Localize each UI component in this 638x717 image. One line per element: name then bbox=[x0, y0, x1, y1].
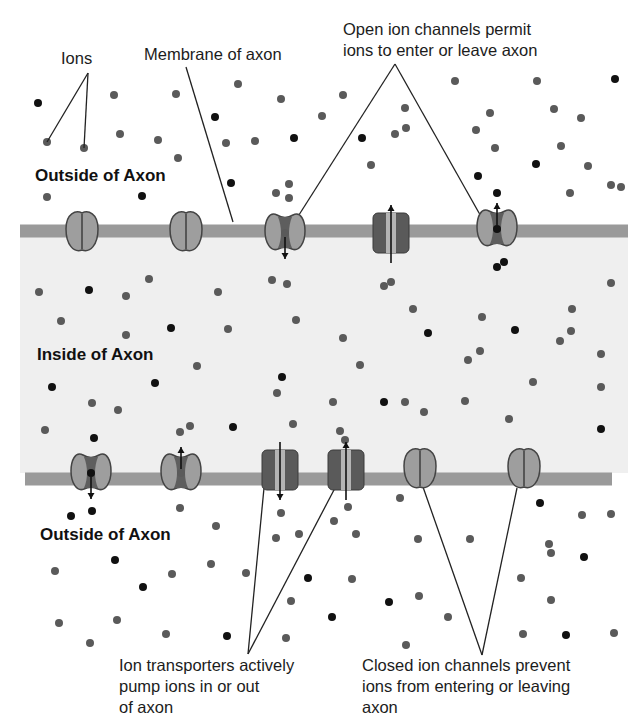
ion-in-channel bbox=[87, 469, 95, 477]
ion-dot bbox=[273, 389, 281, 397]
ion-dot bbox=[88, 507, 96, 515]
ion-dot bbox=[88, 399, 96, 407]
ion-dot bbox=[396, 494, 404, 502]
ion-dot bbox=[336, 427, 344, 435]
ion-dot bbox=[151, 379, 159, 387]
ion-dot bbox=[617, 183, 625, 191]
ion-dot bbox=[358, 134, 366, 142]
ion-dot bbox=[367, 161, 375, 169]
ion-dot bbox=[329, 398, 337, 406]
ion-dot bbox=[493, 263, 501, 271]
closed-channel bbox=[404, 449, 436, 488]
transporters-label-line-1: Ion transporters actively bbox=[119, 655, 294, 676]
ion-dot bbox=[420, 408, 428, 416]
ion-dot bbox=[318, 112, 326, 120]
ion-dot bbox=[285, 194, 293, 202]
ion-dot bbox=[55, 619, 63, 627]
ion-dot bbox=[242, 569, 250, 577]
open-channels-label-line-2: ions to enter or leave axon bbox=[343, 40, 537, 61]
ion-dot bbox=[529, 378, 537, 386]
ion-dot bbox=[34, 99, 42, 107]
ion-dot bbox=[517, 574, 525, 582]
ion-dot bbox=[251, 137, 259, 145]
ion-dot bbox=[352, 530, 360, 538]
ion-dot bbox=[341, 436, 349, 444]
ion-dot bbox=[227, 179, 235, 187]
ion-dot bbox=[493, 189, 501, 197]
ion-dot bbox=[174, 154, 182, 162]
ion-dot bbox=[176, 504, 184, 512]
ion-dot bbox=[597, 350, 605, 358]
ion-dot bbox=[550, 105, 558, 113]
ion-dot bbox=[547, 549, 555, 557]
ion-dot bbox=[464, 356, 472, 364]
ion-dot bbox=[556, 337, 564, 345]
ion-dot bbox=[415, 592, 423, 600]
ion-dot bbox=[122, 292, 130, 300]
ion-dot bbox=[214, 288, 222, 296]
ion-dot bbox=[168, 570, 176, 578]
ion-dot bbox=[472, 126, 480, 134]
ion-dot bbox=[519, 630, 527, 638]
ion-dot bbox=[122, 331, 130, 339]
ion-dot bbox=[536, 499, 544, 507]
ion-dot bbox=[414, 535, 422, 543]
ion-in-channel bbox=[493, 225, 501, 233]
closed-channel bbox=[66, 212, 98, 251]
ion-dot bbox=[272, 189, 280, 197]
ion-dot bbox=[207, 560, 215, 568]
ion-dot bbox=[547, 596, 555, 604]
ion-dot bbox=[611, 75, 619, 83]
ion-dot bbox=[290, 134, 298, 142]
ion-dot bbox=[285, 180, 293, 188]
ion-dot bbox=[562, 631, 570, 639]
ion-dot bbox=[401, 398, 409, 406]
ion-dot bbox=[154, 136, 162, 144]
ion-dot bbox=[229, 423, 237, 431]
ion-dot bbox=[212, 522, 220, 530]
ion-dot bbox=[461, 397, 469, 405]
transporters-label-line-2: pump ions in or out bbox=[119, 676, 294, 697]
ion-dot bbox=[607, 279, 615, 287]
ion-dot bbox=[139, 583, 147, 591]
ion-dot bbox=[545, 540, 553, 548]
ion-dot bbox=[268, 276, 276, 284]
ion-dot bbox=[466, 535, 474, 543]
ion-dot bbox=[48, 383, 56, 391]
ion-dot bbox=[224, 325, 232, 333]
ion-dot bbox=[387, 278, 395, 286]
ion-dot bbox=[193, 362, 201, 370]
outside-of-axon-bottom-label: Outside of Axon bbox=[40, 525, 171, 545]
ion-dot bbox=[292, 316, 300, 324]
ion-dot bbox=[486, 109, 494, 117]
ion-dot bbox=[578, 511, 586, 519]
closed-channel bbox=[170, 212, 202, 251]
ion-dot bbox=[567, 327, 575, 335]
ion-dot bbox=[385, 598, 393, 606]
ion-dot bbox=[597, 425, 605, 433]
ion-dot bbox=[176, 428, 184, 436]
ion-dot bbox=[113, 616, 121, 624]
ion-dot bbox=[339, 334, 347, 342]
ion-dot bbox=[211, 113, 219, 121]
ion-dot bbox=[162, 630, 170, 638]
ion-dot bbox=[277, 509, 285, 517]
ions-label: Ions bbox=[61, 48, 92, 69]
ion-dot bbox=[610, 629, 618, 637]
open-channels-label: Open ion channels permit ions to enter o… bbox=[343, 19, 537, 61]
ion-dot bbox=[111, 556, 119, 564]
ion-dot bbox=[277, 95, 285, 103]
ion-dot bbox=[580, 553, 588, 561]
ion-dot bbox=[283, 280, 291, 288]
closed-channels-label-line-2: ions from entering or leaving bbox=[362, 676, 570, 697]
ion-dot bbox=[43, 193, 51, 201]
ion-dot bbox=[444, 613, 452, 621]
ion-dot bbox=[474, 172, 482, 180]
ion-dot bbox=[533, 77, 541, 85]
ion-dot bbox=[402, 641, 410, 649]
ion-dot bbox=[90, 434, 98, 442]
ion-dot bbox=[597, 383, 605, 391]
ion-dot bbox=[138, 192, 146, 200]
ion-dot bbox=[328, 613, 336, 621]
ion-dot bbox=[278, 373, 286, 381]
